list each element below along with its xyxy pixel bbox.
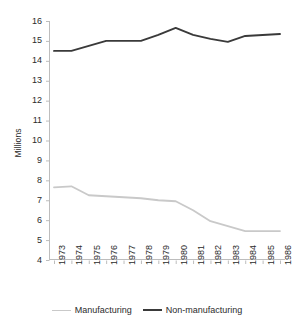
x-tick-label: 1978 (145, 245, 154, 265)
chart-legend: Manufacturing Non-manufacturing (0, 305, 294, 315)
legend-label-manufacturing: Manufacturing (75, 305, 132, 315)
x-tick-label: 1976 (110, 245, 119, 265)
x-tick-label: 1973 (58, 245, 67, 265)
x-tick-label: 1986 (284, 245, 293, 265)
x-tick-label: 1982 (214, 245, 223, 265)
legend-line-swatch-dark-icon (143, 309, 162, 311)
line-chart: Millions 16151413121110987654 1973197419… (0, 0, 294, 328)
x-tick-label: 1985 (267, 245, 276, 265)
x-tick-label: 1983 (232, 245, 241, 265)
legend-label-non-manufacturing: Non-manufacturing (166, 305, 243, 315)
x-tick-label: 1981 (197, 245, 206, 265)
legend-item-manufacturing: Manufacturing (52, 305, 132, 315)
x-tick-label: 1980 (180, 245, 189, 265)
x-axis-tick-labels: 1973197419751976197719781979198019811982… (0, 0, 294, 328)
x-tick-label: 1979 (162, 245, 171, 265)
x-tick-label: 1975 (93, 245, 102, 265)
legend-item-non-manufacturing: Non-manufacturing (143, 305, 243, 315)
x-tick-label: 1984 (249, 245, 258, 265)
x-tick-label: 1977 (128, 245, 137, 265)
x-tick-label: 1974 (75, 245, 84, 265)
legend-line-swatch-gray-icon (52, 310, 71, 311)
